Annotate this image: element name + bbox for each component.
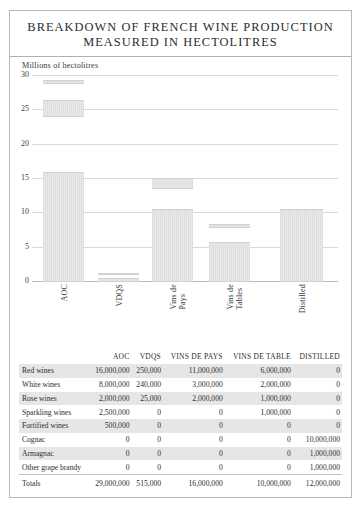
data-table: AOCVDQSVINS DE PAYSVINS DE TABLEDISTILLE… [19, 350, 342, 490]
table-totals-cell: 12,000,000 [293, 475, 342, 490]
table-cell: 0 [225, 433, 293, 447]
table-row: Red wines16,000,000250,00011,000,0006,00… [19, 364, 342, 378]
bar-segment [280, 209, 323, 282]
table-cell: 0 [163, 460, 225, 474]
table-cell: 0 [131, 405, 163, 419]
bar-column [98, 76, 139, 282]
table-cell: 0 [293, 364, 342, 378]
bar-column [43, 76, 84, 282]
table-cell: 1,000,000 [225, 405, 293, 419]
table-row: White wines8,000,000240,0003,000,0002,00… [19, 378, 342, 392]
table-row: Other grape brandy00001,000,000 [19, 460, 342, 474]
data-table-container: AOCVDQSVINS DE PAYSVINS DE TABLEDISTILLE… [10, 350, 351, 497]
y-axis-title: Millions of hectolitres [22, 61, 98, 70]
table-cell: 0 [131, 433, 163, 447]
table-cell: 0 [89, 447, 131, 461]
table-row-label: Rose wines [19, 392, 89, 406]
x-axis-label-distilled: Distilled [298, 284, 307, 313]
table-column-header: VINS DE TABLE [225, 350, 293, 364]
table-cell: 0 [225, 419, 293, 433]
table-cell: 500,000 [89, 419, 131, 433]
table-cell: 0 [293, 392, 342, 406]
table-cell: 2,000,000 [225, 378, 293, 392]
y-tick-label: 30 [21, 70, 29, 79]
table-cell: 6,000,000 [225, 364, 293, 378]
table-body: Red wines16,000,000250,00011,000,0006,00… [19, 364, 342, 490]
x-axis-label-vins-de-tables: Vins de Tables [226, 284, 244, 310]
table-column-header: AOC [89, 350, 131, 364]
table-column-header: VINS DE PAYS [163, 350, 225, 364]
table-cell: 0 [89, 433, 131, 447]
table-cell: 0 [293, 378, 342, 392]
x-axis-label-vdqs: VDQS [115, 284, 124, 307]
table-cell: 1,000,000 [293, 447, 342, 461]
x-axis-label-aoc: AOC [60, 284, 69, 302]
table-cell: 0 [89, 460, 131, 474]
table-cell: 0 [293, 405, 342, 419]
table-cell: 8,000,000 [89, 378, 131, 392]
x-axis-label-vins-de-pays: Vins de Pays [169, 284, 187, 310]
table-column-header: VDQS [131, 350, 163, 364]
figure-frame: BREAKDOWN OF FRENCH WINE PRODUCTION MEAS… [9, 10, 352, 498]
bar-column [152, 76, 193, 282]
title-line-1: BREAKDOWN OF FRENCH WINE PRODUCTION [24, 20, 337, 35]
y-tick-label: 5 [25, 242, 29, 251]
bar-segment [43, 100, 84, 117]
table-cell: 240,000 [131, 378, 163, 392]
table-header-row: AOCVDQSVINS DE PAYSVINS DE TABLEDISTILLE… [19, 350, 342, 364]
table-cell: 2,000,000 [89, 392, 131, 406]
bar-segment [98, 278, 139, 282]
bar-segment [209, 242, 250, 282]
table-row: Rose wines2,000,00025,0002,000,0001,000,… [19, 392, 342, 406]
bar-segment [152, 178, 193, 189]
table-row: Armagnac00001,000,000 [19, 447, 342, 461]
table-cell: 0 [293, 419, 342, 433]
table-totals-label: Totals [19, 475, 89, 490]
table-cell: 10,000,000 [293, 433, 342, 447]
table-cell: 1,000,000 [293, 460, 342, 474]
chart-area: Millions of hectolitres 051015202530 AOC… [10, 57, 351, 355]
table-cell: 0 [163, 447, 225, 461]
table-row-label: White wines [19, 378, 89, 392]
y-tick-label: 20 [21, 139, 29, 148]
bar-segment [43, 172, 84, 282]
table-cell: 0 [163, 419, 225, 433]
table-cell: 1,000,000 [225, 392, 293, 406]
table-cell: 11,000,000 [163, 364, 225, 378]
table-cell: 0 [163, 405, 225, 419]
table-corner-header [19, 350, 89, 364]
table-cell: 0 [131, 460, 163, 474]
table-cell: 250,000 [131, 364, 163, 378]
table-totals-cell: 515,000 [131, 475, 163, 490]
bar-segment [98, 273, 139, 275]
table-totals-row: Totals29,000,000515,00016,000,00010,000,… [19, 475, 342, 490]
table-row: Cognac000010,000,000 [19, 433, 342, 447]
y-tick-label: 25 [21, 105, 29, 114]
y-tick-label: 10 [21, 208, 29, 217]
table-row-label: Cognac [19, 433, 89, 447]
table-cell: 0 [131, 419, 163, 433]
table-totals-cell: 29,000,000 [89, 475, 131, 490]
figure-root: BREAKDOWN OF FRENCH WINE PRODUCTION MEAS… [0, 0, 361, 519]
table-row: Fortified wines500,0000000 [19, 419, 342, 433]
table-column-header: DISTILLED [293, 350, 342, 364]
table-row-label: Other grape brandy [19, 460, 89, 474]
table-row-label: Armagnac [19, 447, 89, 461]
bar-segment [43, 80, 84, 84]
bar-column [209, 76, 250, 282]
table-row-label: Red wines [19, 364, 89, 378]
table-cell: 2,000,000 [163, 392, 225, 406]
table-cell: 3,000,000 [163, 378, 225, 392]
y-tick-label: 15 [21, 173, 29, 182]
table-cell: 16,000,000 [89, 364, 131, 378]
table-cell: 0 [225, 460, 293, 474]
table-row: Sparkling wines2,500,000001,000,0000 [19, 405, 342, 419]
table-totals-cell: 10,000,000 [225, 475, 293, 490]
chart-plot: 051015202530 [32, 76, 338, 282]
table-row-label: Fortified wines [19, 419, 89, 433]
table-cell: 2,500,000 [89, 405, 131, 419]
table-cell: 0 [163, 433, 225, 447]
bar-column [280, 76, 323, 282]
table-totals-cell: 16,000,000 [163, 475, 225, 490]
figure-title: BREAKDOWN OF FRENCH WINE PRODUCTION MEAS… [10, 11, 351, 57]
